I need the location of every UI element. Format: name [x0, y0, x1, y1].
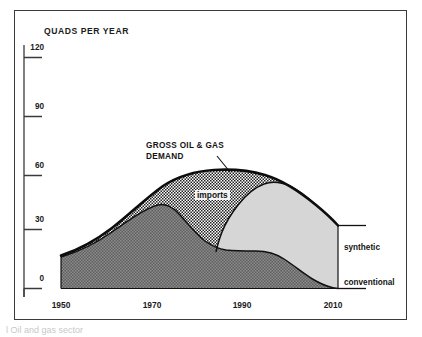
y-tick-label-90: 90 [18, 102, 44, 111]
imports-area-label: imports [195, 190, 230, 200]
chart-axis-title: QUADS PER YEAR [44, 26, 129, 36]
y-tick-label-0: 0 [18, 274, 44, 283]
gross-demand-callout-label: GROSS OIL & GAS DEMAND [146, 141, 224, 162]
synthetic-area-label: synthetic [344, 243, 380, 252]
figure-container: QUADS PER YEAR 120 90 60 30 0 1950 1970 … [0, 0, 422, 337]
x-tick-label-1990: 1990 [222, 300, 262, 310]
conventional-area-label: conventional [344, 278, 395, 287]
x-tick-label-1950: 1950 [41, 300, 81, 310]
page-caption-fragment: l Oil and gas sector [6, 325, 83, 336]
y-axis [24, 45, 42, 297]
x-tick-label-2010: 2010 [313, 300, 353, 310]
x-tick-label-1970: 1970 [132, 300, 172, 310]
y-tick-label-120: 120 [18, 43, 44, 52]
y-tick-label-30: 30 [18, 215, 44, 224]
y-tick-label-60: 60 [18, 161, 44, 170]
